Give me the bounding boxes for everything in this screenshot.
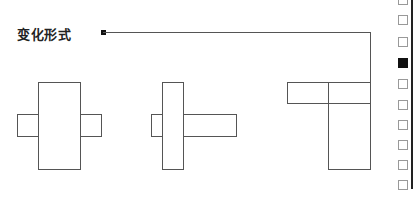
checkbox[interactable] xyxy=(398,180,408,190)
checkbox[interactable] xyxy=(398,15,408,25)
checkbox[interactable] xyxy=(398,79,408,89)
connector-line-horizontal xyxy=(103,32,371,33)
checkbox[interactable] xyxy=(398,100,408,110)
checkbox[interactable] xyxy=(398,0,408,5)
checkbox[interactable] xyxy=(398,120,408,130)
variant-label: 变化形式 xyxy=(17,24,71,43)
variant-1-body xyxy=(38,82,81,170)
variant-1-right-arm xyxy=(80,114,102,137)
variant-3-top-left xyxy=(287,82,329,104)
variant-3-top-right xyxy=(328,82,371,104)
variant-3-body xyxy=(328,103,371,170)
checkbox[interactable] xyxy=(398,37,408,47)
checkbox-checked[interactable] xyxy=(398,58,408,68)
checkbox[interactable] xyxy=(398,160,408,170)
connector-line-vertical xyxy=(370,32,371,82)
checkbox[interactable] xyxy=(398,140,408,150)
variant-2-body xyxy=(162,82,184,170)
sidebar-edge xyxy=(411,0,413,189)
variant-1-left-arm xyxy=(17,114,39,137)
variant-2-right-arm xyxy=(183,114,237,137)
